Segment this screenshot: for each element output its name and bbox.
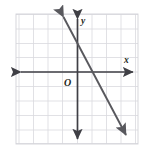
coordinate-plane-figure: x y O [0,0,148,150]
x-axis-label: x [123,55,129,65]
origin-label: O [64,77,71,88]
graph-canvas: x y O [0,0,148,150]
y-axis-label: y [80,16,86,26]
